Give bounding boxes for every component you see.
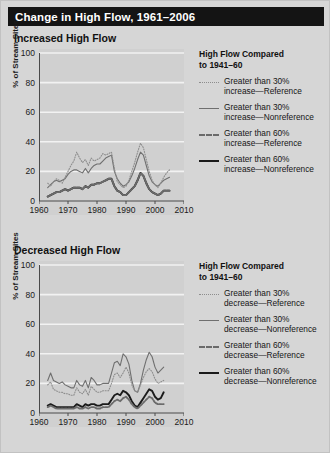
x-tick-label: 2010 <box>175 205 194 215</box>
legend-label-line2: decrease—Reference <box>224 350 305 360</box>
x-tick-label: 2010 <box>175 417 194 427</box>
legend-line-swatch-icon <box>199 129 219 139</box>
legend-item-label: Greater than 30%decrease—Nonreference <box>224 314 317 334</box>
legend-label-line1: Greater than 30% <box>224 314 317 324</box>
legend-increased: High Flow Compared to 1941–60 Greater th… <box>199 49 327 180</box>
series-line <box>48 367 164 395</box>
legend-line-swatch-icon <box>199 103 219 113</box>
legend-line-swatch-icon <box>199 367 219 377</box>
legend-label-line1: Greater than 60% <box>224 128 302 138</box>
y-tick-label: 60 <box>13 107 35 117</box>
series-line <box>48 152 170 188</box>
plot-wrapper-increased: % of Stream Sites 0204060801001960197019… <box>39 49 184 215</box>
legend-label-line1: Greater than 30% <box>224 102 314 112</box>
legend-title-decreased: High Flow Compared to 1941–60 <box>199 261 327 282</box>
legend-line-swatch-icon <box>199 155 219 165</box>
figure-root: Change in High Flow, 1961–2006 Increased… <box>0 0 330 453</box>
legend-decreased: High Flow Compared to 1941–60 Greater th… <box>199 261 327 392</box>
x-tick-label: 1990 <box>117 205 136 215</box>
y-tick-label: 80 <box>13 78 35 88</box>
panel-heading-increased: Increased High Flow <box>14 32 116 44</box>
legend-item-label: Greater than 30%decrease—Reference <box>224 288 305 308</box>
legend-line-swatch-icon <box>199 315 219 325</box>
legend-item-label: Greater than 60%increase—Nonreference <box>224 154 314 174</box>
legend-line-swatch-icon <box>199 341 219 351</box>
legend-item-decreased-3[interactable]: Greater than 60%decrease—Nonreference <box>199 366 327 386</box>
y-tick-label: 60 <box>13 319 35 329</box>
legend-item-label: Greater than 30%increase—Reference <box>224 76 302 96</box>
legend-label-line1: Greater than 30% <box>224 76 302 86</box>
legend-title-line2: to 1941–60 <box>199 272 327 283</box>
y-tick-label: 40 <box>13 137 35 147</box>
x-tick-label: 1970 <box>59 205 78 215</box>
legend-label-line2: increase—Reference <box>224 86 302 96</box>
legend-label-line2: decrease—Nonreference <box>224 376 317 386</box>
y-tick-label: 80 <box>13 290 35 300</box>
x-tick-label: 1990 <box>117 417 136 427</box>
legend-label-line1: Greater than 30% <box>224 288 305 298</box>
legend-item-label: Greater than 60%decrease—Reference <box>224 340 305 360</box>
y-tick-label: 100 <box>13 260 35 270</box>
legend-label-line2: decrease—Nonreference <box>224 324 317 334</box>
legend-rows-decreased: Greater than 30%decrease—ReferenceGreate… <box>199 288 327 386</box>
figure-title-bar: Change in High Flow, 1961–2006 <box>8 7 324 26</box>
legend-rows-increased: Greater than 30%increase—ReferenceGreate… <box>199 76 327 174</box>
legend-item-label: Greater than 60%increase—Reference <box>224 128 302 148</box>
legend-item-increased-0[interactable]: Greater than 30%increase—Reference <box>199 76 327 96</box>
legend-item-decreased-0[interactable]: Greater than 30%decrease—Reference <box>199 288 327 308</box>
legend-label-line1: Greater than 60% <box>224 340 305 350</box>
x-tick-label: 1970 <box>59 417 78 427</box>
chart-svg-decreased <box>39 261 184 427</box>
legend-title-line1: High Flow Compared <box>199 261 327 272</box>
x-tick-label: 2000 <box>146 417 165 427</box>
legend-title-increased: High Flow Compared to 1941–60 <box>199 49 327 70</box>
legend-line-swatch-icon <box>199 289 219 299</box>
legend-item-decreased-1[interactable]: Greater than 30%decrease—Nonreference <box>199 314 327 334</box>
legend-item-increased-2[interactable]: Greater than 60%increase—Reference <box>199 128 327 148</box>
x-tick-label: 2000 <box>146 205 165 215</box>
legend-item-increased-1[interactable]: Greater than 30%increase—Nonreference <box>199 102 327 122</box>
legend-label-line2: increase—Nonreference <box>224 164 314 174</box>
x-tick-label: 1980 <box>88 417 107 427</box>
figure-title: Change in High Flow, 1961–2006 <box>8 11 195 23</box>
x-tick-label: 1980 <box>88 205 107 215</box>
legend-title-line2: to 1941–60 <box>199 60 327 71</box>
legend-line-swatch-icon <box>199 77 219 87</box>
x-tick-label: 1960 <box>30 205 49 215</box>
y-tick-label: 20 <box>13 166 35 176</box>
y-tick-label: 100 <box>13 48 35 58</box>
y-tick-label: 20 <box>13 378 35 388</box>
x-tick-label: 1960 <box>30 417 49 427</box>
legend-label-line2: decrease—Reference <box>224 298 305 308</box>
legend-item-decreased-2[interactable]: Greater than 60%decrease—Reference <box>199 340 327 360</box>
plot-wrapper-decreased: % of Stream Sites 0204060801001960197019… <box>39 261 184 427</box>
legend-item-label: Greater than 60%decrease—Nonreference <box>224 366 317 386</box>
legend-title-line1: High Flow Compared <box>199 49 327 60</box>
series-line <box>48 389 164 407</box>
legend-item-label: Greater than 30%increase—Nonreference <box>224 102 314 122</box>
panel-heading-decreased: Decreased High Flow <box>14 244 120 256</box>
legend-label-line2: increase—Nonreference <box>224 112 314 122</box>
legend-label-line2: increase—Reference <box>224 138 302 148</box>
plot-area-increased <box>39 49 184 215</box>
chart-svg-increased <box>39 49 184 215</box>
legend-item-increased-3[interactable]: Greater than 60%increase—Nonreference <box>199 154 327 174</box>
legend-label-line1: Greater than 60% <box>224 154 314 164</box>
y-tick-label: 40 <box>13 349 35 359</box>
legend-label-line1: Greater than 60% <box>224 366 317 376</box>
plot-area-decreased <box>39 261 184 427</box>
